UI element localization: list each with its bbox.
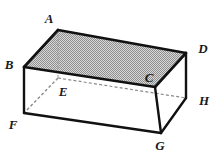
vertex-label-H: H <box>199 94 209 107</box>
vertex-label-F: F <box>9 118 18 131</box>
rectangular-prism-svg <box>0 0 219 153</box>
vertex-label-A: A <box>45 12 54 25</box>
figure-canvas: A B C D E F G H <box>0 0 219 153</box>
vertex-label-G: G <box>155 139 164 152</box>
vertex-label-D: D <box>198 42 207 55</box>
vertex-label-C: C <box>145 71 154 84</box>
vertex-label-B: B <box>5 58 14 71</box>
vertex-label-E: E <box>59 85 68 98</box>
